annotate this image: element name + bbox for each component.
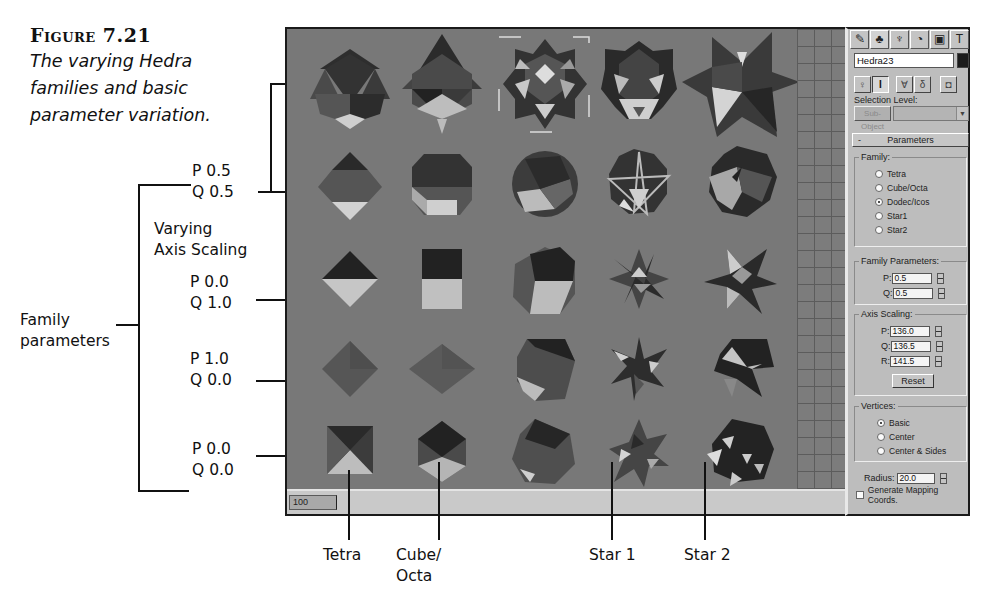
generate-mapping-coords-option[interactable]: Generate Mapping Coords.	[856, 489, 968, 501]
label-line: Varying	[154, 219, 247, 240]
radio-button[interactable]	[875, 170, 883, 178]
axis-q-spinner[interactable]: Q: 136.5	[881, 340, 943, 352]
create-tab-icon[interactable]: ✎	[850, 30, 869, 49]
pin-stack-button-icon[interactable]: ♀	[854, 76, 871, 93]
spinner-arrows-icon[interactable]	[938, 288, 945, 299]
frame-counter[interactable]: 100	[289, 495, 337, 510]
label-line: Star 2	[684, 545, 731, 566]
family-option-star2[interactable]: Star2	[875, 224, 907, 236]
spinner-arrows-icon[interactable]	[940, 473, 947, 484]
axis-r-spinner[interactable]: R: 141.5	[881, 355, 942, 367]
hedra-cube-octa-axis-scaled[interactable]	[402, 34, 482, 134]
family-q-spinner[interactable]: Q: 0.5	[883, 287, 945, 299]
spinner-arrows-icon[interactable]	[936, 341, 943, 352]
spinner-label: P:	[881, 326, 890, 336]
spinner-arrows-icon[interactable]	[937, 273, 944, 284]
object-name-field[interactable]: Hedra23	[854, 53, 954, 68]
radio-button[interactable]	[875, 184, 883, 192]
radio-button[interactable]	[877, 447, 885, 455]
collapse-icon[interactable]: -	[858, 134, 861, 146]
hedra-tetra-axis-scaled[interactable]	[310, 49, 390, 129]
radius-spinner[interactable]: Radius: 20.0	[864, 472, 947, 484]
p-value: P 0.0	[192, 439, 234, 460]
hedra-star2-p10-q00[interactable]	[714, 339, 774, 397]
vertices-option-center[interactable]: Center	[877, 431, 915, 443]
utilities-tab-icon[interactable]: T	[950, 30, 969, 49]
radio-button-selected[interactable]	[875, 198, 883, 206]
family-option-tetra[interactable]: Tetra	[875, 168, 906, 180]
figure-number: Figure 7.21	[30, 24, 290, 46]
radio-button[interactable]	[877, 433, 885, 441]
radio-button[interactable]	[875, 212, 883, 220]
perspective-viewport[interactable]: 100	[285, 27, 845, 516]
chevron-down-icon[interactable]: ▼	[956, 107, 968, 120]
sub-object-button[interactable]: Sub-Object	[854, 106, 891, 121]
vertices-option-basic[interactable]: Basic	[877, 417, 910, 429]
bracket-line	[138, 184, 191, 186]
viewport-scene[interactable]	[287, 29, 797, 489]
generate-mapping-checkbox[interactable]	[856, 491, 864, 499]
hedra-star1-p10-q00[interactable]	[611, 337, 667, 401]
hedra-star1-p05-q05[interactable]	[609, 149, 669, 214]
hedra-tetra-p05-q05[interactable]	[318, 152, 382, 220]
reset-button[interactable]: Reset	[892, 374, 934, 388]
family-p-input[interactable]: 0.5	[892, 273, 932, 284]
radius-input[interactable]: 20.0	[897, 473, 935, 484]
family-option-star1[interactable]: Star1	[875, 210, 907, 222]
hedra-star2-p05-q05[interactable]	[709, 146, 777, 217]
axis-p-spinner[interactable]: P: 136.0	[881, 325, 942, 337]
family-p-spinner[interactable]: P: 0.5	[883, 272, 944, 284]
spinner-arrows-icon[interactable]	[935, 326, 942, 337]
hierarchy-tab-icon[interactable]: ♆	[890, 30, 909, 49]
hedra-cube-octa-p00-q10[interactable]	[422, 249, 462, 309]
sub-object-dropdown[interactable]: ▼	[893, 106, 969, 121]
show-end-result-button-icon[interactable]: I	[872, 76, 889, 93]
family-option-cube-octa[interactable]: Cube/Octa	[875, 182, 928, 194]
hedra-tetra-p10-q00[interactable]	[322, 341, 378, 397]
hedra-star1-p00-q10[interactable]	[609, 249, 669, 309]
hedra-dodec-icos-axis-scaled[interactable]	[503, 39, 587, 129]
family-option-dodec-icos[interactable]: Dodec/Icos	[875, 196, 930, 208]
time-slider-bar[interactable]: 100	[287, 489, 845, 516]
hedra-dodec-icos-p00-q00[interactable]	[512, 419, 575, 484]
object-color-swatch[interactable]	[957, 53, 969, 68]
varying-axis-scaling-label: Varying Axis Scaling	[154, 219, 247, 261]
leader-line	[270, 83, 272, 192]
configure-modifier-sets-button-icon[interactable]: ◘	[940, 76, 957, 93]
hedra-tetra-p00-q00[interactable]	[327, 426, 373, 474]
hedra-cube-octa-p10-q00[interactable]	[409, 344, 475, 394]
family-q-input[interactable]: 0.5	[893, 288, 933, 299]
label-line: Cube/	[396, 545, 441, 566]
make-unique-button-icon[interactable]: ∀	[896, 76, 913, 93]
rollout-title: Parameters	[887, 135, 934, 145]
axis-q-input[interactable]: 136.5	[891, 341, 931, 352]
hedra-star1-p00-q00[interactable]	[609, 419, 669, 487]
hedra-cube-octa-p00-q00[interactable]	[418, 421, 466, 482]
remove-modifier-button-icon[interactable]: δ	[914, 76, 931, 93]
leader-line	[704, 462, 706, 540]
hedra-cube-octa-p05-q05[interactable]	[412, 154, 472, 215]
hedra-tetra-p00-q10[interactable]	[322, 251, 378, 307]
hedra-dodec-icos-p05-q05[interactable]	[512, 151, 578, 217]
label-line: Axis Scaling	[154, 240, 247, 261]
radio-button[interactable]	[875, 226, 883, 234]
hedra-star2-p00-q00[interactable]	[707, 419, 774, 486]
radio-button-selected[interactable]	[877, 419, 885, 427]
checkbox-label: Generate Mapping Coords.	[868, 485, 968, 505]
motion-tab-icon[interactable]: ◔	[910, 30, 929, 49]
hedra-dodec-icos-p00-q10[interactable]	[513, 247, 575, 314]
row-label-p00-q10: P 0.0 Q 1.0	[190, 272, 232, 314]
axis-r-input[interactable]: 141.5	[890, 356, 930, 367]
hedra-dodec-icos-p10-q00[interactable]	[517, 339, 575, 401]
family-parameters-label: Family parameters	[20, 310, 110, 352]
hedra-star2-p00-q10[interactable]	[704, 249, 777, 314]
spinner-label: P:	[883, 273, 892, 283]
vertices-option-center-sides[interactable]: Center & Sides	[877, 445, 946, 457]
axis-p-input[interactable]: 136.0	[890, 326, 930, 337]
parameters-rollout-header[interactable]: - Parameters	[852, 133, 969, 147]
spinner-arrows-icon[interactable]	[935, 356, 942, 367]
modify-tab-icon[interactable]: ♣	[870, 30, 889, 49]
hedra-star2-axis-scaled[interactable]	[682, 32, 797, 137]
display-tab-icon[interactable]: ▣	[930, 30, 949, 49]
hedra-star1-axis-scaled[interactable]	[601, 41, 677, 119]
